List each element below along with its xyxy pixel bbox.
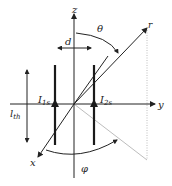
current-arrow-1-icon [51,99,59,107]
projection-guides [74,30,147,160]
phi-arc [46,140,117,154]
current-2-label: I2s [99,94,112,107]
theta-label: θ [97,23,103,34]
r-label: r [148,20,153,30]
lth-label: lth [10,108,21,121]
theta-arc [76,33,118,53]
x-axis-label: x [30,157,36,168]
d-label: d [65,36,71,47]
current-arrow-2-icon [90,99,98,107]
y-axis-label: y [157,99,164,110]
z-axis-label: z [71,4,78,15]
antenna-coordinate-diagram: z y x r θ φ d lth I1s I2s [0,0,172,186]
phi-label: φ [81,163,88,174]
r-projection-line [74,104,147,160]
r-vector [74,28,147,104]
current-1-label: I1s [37,94,50,107]
